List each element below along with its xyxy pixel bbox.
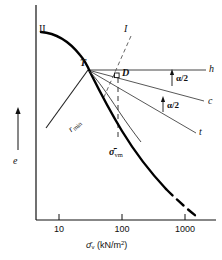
label-alpha-half-lower: α/2	[167, 101, 179, 110]
label-line-t: t	[199, 127, 202, 137]
label-alpha-half-upper: α/2	[176, 74, 188, 83]
label-y-axis: e	[13, 156, 17, 166]
x-axis-title-units-open: (kN/m	[94, 240, 121, 250]
x-axis-title: σ̄v (kN/m2)	[86, 240, 127, 250]
y-axis-arrow	[15, 107, 20, 150]
angle-arrow-lower	[161, 96, 165, 112]
label-point-t: T	[80, 58, 86, 68]
curve-ii-solid	[41, 32, 166, 189]
label-curve-i: I	[124, 24, 127, 34]
x-axis-ticks	[59, 214, 185, 220]
label-curve-ii: II	[39, 24, 46, 34]
label-line-h: h	[209, 64, 214, 74]
x-tick-label-100: 100	[114, 224, 129, 234]
figure-container: II I T D h c t α/2 α/2 rmin σ̄vm e 10 10…	[0, 0, 222, 260]
label-point-d: D	[122, 68, 129, 78]
angle-arrow-upper	[170, 69, 174, 86]
x-axis-title-units-close: )	[124, 240, 127, 250]
point-d-marker	[115, 73, 120, 78]
x-tick-label-1000: 1000	[175, 224, 195, 234]
x-tick-label-10: 10	[54, 224, 64, 234]
label-line-c: c	[208, 96, 212, 106]
label-sigma-vm-sub: vm	[114, 151, 122, 158]
curve-ii-dashed-tail	[166, 189, 196, 216]
chart-canvas	[0, 0, 222, 260]
label-sigma-vm: σ̄vm	[109, 141, 123, 159]
